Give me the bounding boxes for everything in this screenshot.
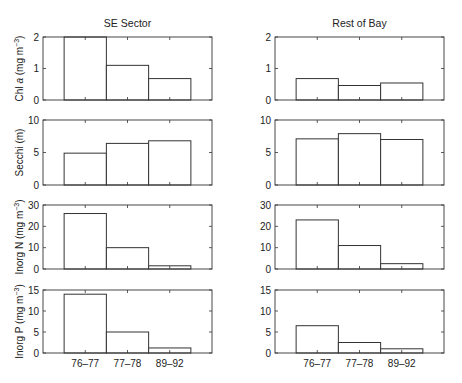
x-tick-label: 77–78 <box>346 358 374 369</box>
bar-76–77 <box>64 294 106 353</box>
panel-inorg-p-rest-of-bay: 05101576–7777–7889–92 <box>260 285 444 370</box>
panel-inorg-n-se-sector: 0102030Inorg N (mg m−3) <box>13 199 212 274</box>
bar-76–77 <box>64 37 106 100</box>
panel-chl-a-rest-of-bay: 012 <box>265 32 444 106</box>
y-tick-label: 2 <box>33 32 39 43</box>
panel-inorg-n-rest-of-bay: 0102030 <box>260 200 444 275</box>
x-tick-label: 76–77 <box>71 358 99 369</box>
y-tick-label: 10 <box>28 115 40 126</box>
bar-76–77 <box>296 79 338 100</box>
y-tick-label: 0 <box>265 95 271 106</box>
y-tick-label: 0 <box>33 348 39 359</box>
bar-89–92 <box>149 141 191 185</box>
figure: SE SectorRest of Bay012Chl a (mg m−3)012… <box>0 0 462 383</box>
y-tick-label: 30 <box>28 200 40 211</box>
bar-76–77 <box>296 139 338 185</box>
bar-77–78 <box>106 143 148 185</box>
y-axis-label: Inorg P (mg m−3) <box>13 284 25 359</box>
y-tick-label: 5 <box>265 147 271 158</box>
title-rest-of-bay: Rest of Bay <box>332 17 387 29</box>
y-tick-label: 10 <box>260 306 272 317</box>
y-axis-label: Secchi (m) <box>14 129 25 177</box>
x-tick-label: 76–77 <box>303 358 331 369</box>
y-tick-label: 10 <box>28 242 40 253</box>
panel-inorg-p-se-sector: 05101576–7777–7889–92Inorg P (mg m−3) <box>13 284 212 369</box>
y-tick-label: 15 <box>260 285 272 296</box>
bar-89–92 <box>149 79 191 100</box>
y-tick-label: 0 <box>265 348 271 359</box>
y-tick-label: 0 <box>265 180 271 191</box>
bar-76–77 <box>64 153 106 185</box>
y-tick-label: 0 <box>33 264 39 275</box>
y-tick-label: 10 <box>28 306 40 317</box>
bar-76–77 <box>296 220 338 269</box>
y-tick-label: 5 <box>265 327 271 338</box>
y-tick-label: 10 <box>260 242 272 253</box>
y-tick-label: 15 <box>28 285 40 296</box>
y-tick-label: 1 <box>33 63 39 74</box>
y-tick-label: 5 <box>33 147 39 158</box>
y-tick-label: 1 <box>265 63 271 74</box>
y-tick-label: 5 <box>33 327 39 338</box>
title-se-sector: SE Sector <box>104 17 152 29</box>
bar-77–78 <box>106 248 148 269</box>
y-tick-label: 0 <box>33 180 39 191</box>
y-tick-label: 10 <box>260 115 272 126</box>
panel-chl-a-se-sector: 012Chl a (mg m−3) <box>13 32 212 106</box>
y-tick-label: 30 <box>260 200 272 211</box>
panel-secchi-se-sector: 0510Secchi (m) <box>14 115 212 191</box>
y-tick-label: 20 <box>260 221 272 232</box>
bar-76–77 <box>64 214 106 269</box>
x-tick-label: 77–78 <box>114 358 142 369</box>
x-tick-label: 89–92 <box>388 358 416 369</box>
y-axis-label: Chl a (mg m−3) <box>13 36 25 102</box>
y-tick-label: 0 <box>33 95 39 106</box>
bar-77–78 <box>338 246 380 269</box>
bar-76–77 <box>296 326 338 353</box>
panel-secchi-rest-of-bay: 0510 <box>260 115 444 191</box>
bar-89–92 <box>381 140 423 186</box>
y-tick-label: 0 <box>265 264 271 275</box>
y-axis-label: Inorg N (mg m−3) <box>13 199 25 274</box>
x-tick-label: 89–92 <box>156 358 184 369</box>
y-tick-label: 2 <box>265 32 271 43</box>
bar-77–78 <box>106 332 148 353</box>
bar-77–78 <box>106 65 148 100</box>
y-tick-label: 20 <box>28 221 40 232</box>
bar-77–78 <box>338 134 380 185</box>
